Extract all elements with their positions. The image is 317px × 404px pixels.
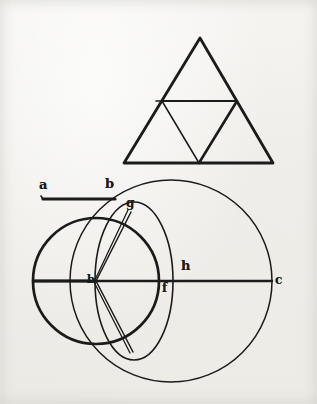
label-c: c bbox=[275, 274, 282, 286]
label-a: a bbox=[39, 178, 47, 191]
segment-ab-tick-left bbox=[41, 196, 43, 199]
segment-ab-figure bbox=[41, 196, 115, 199]
scanned-page: a b g b h f c bbox=[0, 0, 317, 404]
label-g: g bbox=[126, 197, 134, 209]
label-h: h bbox=[181, 259, 190, 272]
circles-figure bbox=[33, 180, 272, 382]
triangle-inner-right-edge bbox=[199, 101, 237, 163]
label-f: f bbox=[162, 282, 167, 294]
triangle-inner-left-edge bbox=[162, 101, 199, 163]
chord-upper-inner bbox=[96, 212, 131, 281]
label-b-top: b bbox=[105, 177, 114, 190]
triangle-figure bbox=[124, 38, 273, 163]
diagram-canvas bbox=[0, 0, 317, 404]
label-b-center: b bbox=[87, 274, 95, 285]
